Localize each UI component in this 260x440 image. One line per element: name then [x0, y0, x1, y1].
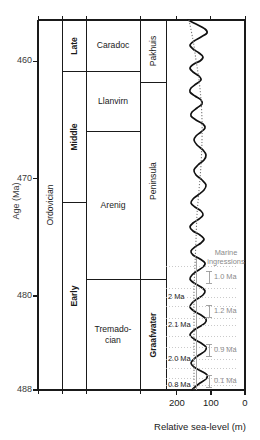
strat-cell-series: Early — [68, 202, 80, 390]
y-axis-title: Age (Ma) — [11, 171, 21, 231]
duration-annotation-left: 2.1 Ma — [168, 320, 191, 329]
duration-annotation-left: 2 Ma — [168, 292, 184, 301]
duration-annotation-left: 2.0 Ma — [168, 354, 191, 363]
x-axis-title: Relative sea-level (m) — [141, 421, 259, 432]
marine-ingressions-title: ingressions — [198, 257, 254, 266]
marine-ingressions-title: Marine — [198, 248, 254, 257]
strat-cell-system: Ordovician — [44, 20, 56, 390]
strat-cell-stage: Llanvirn — [86, 96, 140, 107]
strat-cell-series: Middle — [68, 72, 80, 202]
strat-cell-stage: Arenig — [86, 200, 140, 211]
strat-cell-stage: Tremado- cian — [86, 324, 140, 346]
x-axis-tick-label: 0 — [225, 397, 260, 408]
strat-cell-formation: Pakhuis — [147, 20, 159, 82]
duration-annotation-right: 0.1 Ma — [214, 376, 237, 385]
duration-annotation-right: 1.0 Ma — [214, 272, 237, 281]
y-axis-tick-label: 460 — [2, 55, 32, 65]
chart-canvas — [0, 0, 260, 440]
duration-annotation-left: 0.8 Ma — [168, 380, 191, 389]
strat-cell-series: Late — [68, 20, 80, 72]
strat-cell-formation: Graafwater — [147, 280, 159, 390]
strat-cell-formation: Peninsula — [147, 82, 159, 279]
y-axis-tick-label: 488 — [2, 384, 32, 394]
duration-annotation-right: 0.9 Ma — [214, 345, 237, 354]
y-axis-tick-label: 480 — [2, 290, 32, 300]
sea-level-chart-figure: 460470480488Age (Ma)2001000Relative sea-… — [0, 0, 260, 440]
duration-annotation-right: 1.2 Ma — [214, 306, 237, 315]
strat-cell-stage: Caradoc — [86, 40, 140, 51]
